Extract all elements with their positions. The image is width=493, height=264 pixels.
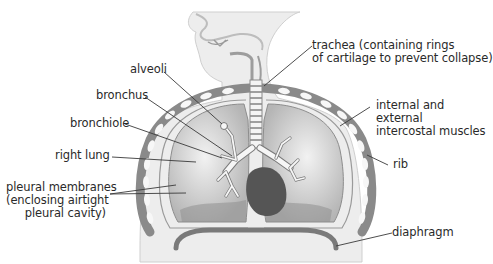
label-diaphragm: diaphragm bbox=[392, 226, 454, 239]
label-trachea: trachea (containing rings of cartilage t… bbox=[312, 39, 493, 65]
label-bronchiole: bronchiole bbox=[70, 117, 129, 130]
label-alveoli: alveoli bbox=[130, 63, 167, 76]
label-bronchus: bronchus bbox=[96, 89, 148, 102]
label-right-lung: right lung bbox=[55, 149, 110, 162]
trachea bbox=[250, 80, 262, 148]
label-pleural-membranes: pleural membranes (enclosing airtight pl… bbox=[6, 181, 106, 220]
label-trachea-line-2: of cartilage to prevent collapse) bbox=[312, 52, 493, 65]
label-rib: rib bbox=[393, 158, 408, 171]
label-pleural-line-3: pleural cavity) bbox=[6, 207, 106, 220]
label-intercostal-muscles: internal and external intercostal muscle… bbox=[376, 99, 485, 138]
label-intercostal-line-3: intercostal muscles bbox=[376, 125, 485, 138]
